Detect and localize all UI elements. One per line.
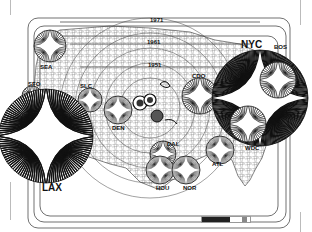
city-disc-atl (206, 136, 234, 164)
city-label-hou: HOU (156, 185, 169, 191)
map-canvas (0, 0, 312, 232)
city-label-sea: SEA (40, 64, 52, 70)
city-label-nyc: NYC (241, 40, 262, 50)
city-disc-sea (34, 30, 66, 62)
city-label-cdo: CDO (192, 73, 205, 79)
city-disc-bos (260, 62, 296, 98)
city-label-sfo: SFO (28, 81, 40, 87)
city-disc-den (104, 96, 132, 124)
city-disc-nor (172, 156, 200, 184)
city-disc-hou (146, 156, 174, 184)
city-label-dal: DAL (167, 141, 179, 147)
city-label-slc: SLC (80, 83, 92, 89)
year-label-1951: 1951 (148, 62, 161, 68)
scale-bar (201, 216, 251, 223)
map-illustration: 1971 1961 1951 SEA SFO SLC LAX DEN CDO D… (0, 0, 312, 232)
city-label-nor: NOR (183, 185, 196, 191)
city-label-lax: LAX (42, 183, 62, 193)
city-disc-wdc (230, 106, 266, 142)
page-edge-mark (300, 0, 301, 25)
year-label-1971: 1971 (150, 17, 163, 23)
city-label-den: DEN (112, 125, 125, 131)
city-disc-lax (0, 89, 93, 183)
city-label-bos: BOS (274, 44, 287, 50)
page-edge-mark (10, 182, 11, 220)
page-edge-mark (300, 212, 301, 232)
city-label-atl: ATL (212, 161, 223, 167)
page-edge-mark (10, 0, 11, 15)
year-label-1961: 1961 (147, 39, 160, 45)
city-label-wdc: WDC (245, 145, 259, 151)
